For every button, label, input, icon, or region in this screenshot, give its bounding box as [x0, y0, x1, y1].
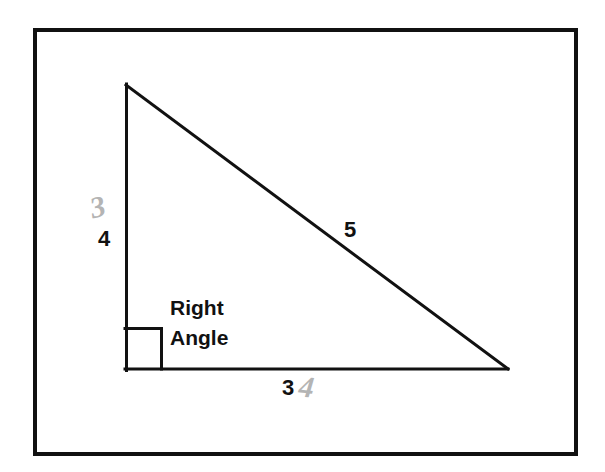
right-angle-caption: Right Angle	[170, 293, 228, 353]
right-angle-caption-line2: Angle	[170, 323, 228, 353]
right-angle-caption-line1: Right	[170, 293, 228, 323]
side-label-vertical-leg: 4	[98, 228, 110, 250]
right-angle-marker-icon	[125, 329, 162, 370]
side-label-base-leg: 3	[282, 377, 294, 399]
figure-root: 3 4 5 3 4 Right Angle	[0, 0, 605, 472]
triangle-drawing	[0, 0, 605, 472]
side-label-hypotenuse: 5	[344, 219, 356, 241]
